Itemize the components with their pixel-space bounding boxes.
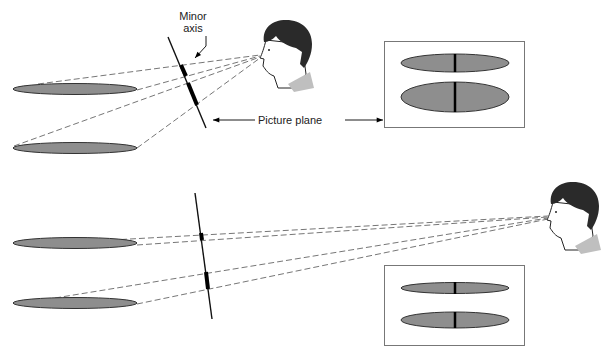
top-panel: Minor axis Picture plane	[13, 10, 525, 154]
bottom-object-ellipse-upper	[13, 238, 137, 249]
ellipse-perspective-diagram: Minor axis Picture plane	[0, 0, 614, 356]
top-minor-axis-lower	[188, 83, 197, 105]
viewer-head-bottom	[547, 182, 601, 254]
minor-axis-label-line1: Minor	[179, 10, 207, 22]
bottom-minor-axis-lower	[206, 272, 208, 289]
minor-axis-pointer-arrow	[195, 36, 206, 58]
top-minor-axis-upper	[181, 65, 186, 76]
top-object-ellipse-upper	[13, 84, 137, 95]
bottom-panel	[13, 182, 601, 346]
bottom-projection-box	[385, 266, 525, 346]
top-object-ellipse-lower	[13, 143, 137, 154]
bottom-picture-plane-line	[195, 193, 212, 319]
viewer-head-top	[260, 20, 314, 92]
bottom-minor-axis-upper	[201, 233, 202, 240]
bottom-object-ellipse-lower	[13, 298, 137, 309]
picture-plane-label: Picture plane	[258, 114, 322, 126]
minor-axis-label-line2: axis	[183, 22, 203, 34]
top-picture-plane-line	[168, 37, 206, 128]
top-sight-lines	[14, 55, 260, 148]
